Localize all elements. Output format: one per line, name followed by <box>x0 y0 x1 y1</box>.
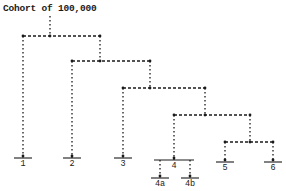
split-node-mid-3 <box>204 114 207 117</box>
leaf-label-2: 2 <box>69 159 74 169</box>
leaf-label-4: 4 <box>171 161 176 171</box>
leaf-node-4 <box>173 157 176 160</box>
leaf-node-6 <box>272 159 275 162</box>
split-node-mid-4 <box>249 141 252 144</box>
split-node-mid-0 <box>49 35 52 38</box>
leaf-label-6: 6 <box>270 163 275 173</box>
cohort-tree-diagram <box>0 0 286 191</box>
split-node-mid-2 <box>149 87 152 90</box>
subleaf-label-4a: 4a <box>155 179 165 189</box>
leaf-label-1: 1 <box>20 159 25 169</box>
leaf-node-2 <box>71 155 74 158</box>
leaf-node-3 <box>122 155 125 158</box>
leaf-label-5: 5 <box>222 163 227 173</box>
subleaf-node-4a <box>159 175 162 178</box>
split-node-mid-1 <box>99 60 102 63</box>
leaf-node-1 <box>22 155 25 158</box>
leaf-label-3: 3 <box>120 159 125 169</box>
leaf-node-5 <box>224 159 227 162</box>
subleaf-label-4b: 4b <box>185 179 195 189</box>
subleaf-node-4b <box>189 175 192 178</box>
